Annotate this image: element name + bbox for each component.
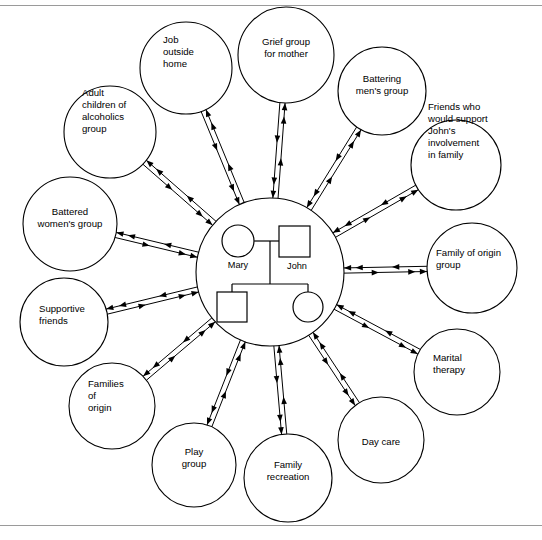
node-label-line: Battered <box>52 206 88 217</box>
connector-marital-therapy[interactable] <box>334 305 420 354</box>
arrowhead-inbound-1 <box>314 189 320 197</box>
connector-supportive-friends[interactable] <box>106 287 199 314</box>
node-label-line: group <box>182 458 207 469</box>
node-label-line: group <box>82 123 107 134</box>
arrowhead-inbound-1 <box>356 265 363 271</box>
node-label-line: for mother <box>264 48 309 59</box>
node-label-line: children of <box>82 99 127 110</box>
arrowhead-inbound-2 <box>234 197 239 205</box>
node-marital-therapy[interactable]: Maritaltherapy <box>414 329 500 415</box>
connector-adult-children-alcoholics[interactable] <box>143 160 216 225</box>
node-label-grief-group-for-mother: Grief groupfor mother <box>262 36 310 59</box>
node-label-supportive-friends: Supportivefriends <box>39 303 85 326</box>
node-job-outside-home[interactable]: Joboutsidehome <box>140 22 232 114</box>
arrowhead-inbound-2 <box>240 342 245 350</box>
connector-grief-group-for-mother[interactable] <box>271 103 288 199</box>
node-label-line: Families <box>88 378 124 389</box>
arrowhead-outbound-0 <box>372 270 379 276</box>
node-label-friends-support-john: Friends whowould supportJohn'sinvolvemen… <box>427 101 488 161</box>
connector-friends-support-john[interactable] <box>333 185 418 237</box>
arrowhead-outbound-1 <box>408 269 415 275</box>
arrowhead-inbound-2 <box>344 265 351 271</box>
ecomap-canvas: Mary John JoboutsidehomeGrief groupfor m… <box>0 0 542 540</box>
node-label-line: origin <box>88 402 111 413</box>
arrowhead-inbound-0 <box>385 331 393 337</box>
arrowhead-inbound-1 <box>229 184 234 192</box>
node-label-line: Day care <box>362 436 400 447</box>
node-family-recreation[interactable]: Familyrecreation <box>244 434 332 522</box>
arrowhead-outbound-1 <box>398 342 406 348</box>
node-label-adult-children-alcoholics: Adultchildren ofalcoholicsgroup <box>82 87 127 135</box>
arrowhead-outbound-2 <box>420 269 427 275</box>
arrowhead-inbound-2 <box>313 332 319 340</box>
node-label-line: Job <box>163 34 178 45</box>
arrowhead-inbound-1 <box>344 220 352 226</box>
node-label-line: Family of origin <box>436 247 501 258</box>
node-label-line: would support <box>427 113 488 124</box>
node-grief-group-for-mother[interactable]: Grief groupfor mother <box>238 7 334 103</box>
node-circle-families-of-origin <box>69 363 155 449</box>
arrowhead-outbound-2 <box>349 398 355 406</box>
connector-battered-womens-group[interactable] <box>115 231 199 258</box>
node-family-of-origin-group[interactable]: Family of origingroup <box>427 223 517 313</box>
node-day-care[interactable]: Day care <box>338 397 424 483</box>
arrowhead-inbound-2 <box>307 200 313 208</box>
node-supportive-friends[interactable]: Supportivefriends <box>20 278 108 366</box>
node-battering-mens-group[interactable]: Batteringmen's group <box>338 47 426 135</box>
node-label-line: in family <box>428 149 463 160</box>
person-son-symbol[interactable] <box>217 292 247 322</box>
connector-day-care[interactable] <box>309 332 360 405</box>
connector-play-group[interactable] <box>207 340 245 427</box>
arrowhead-inbound-0 <box>381 199 389 205</box>
node-label-battered-womens-group: Batteredwomen's group <box>37 206 103 229</box>
arrowhead-outbound-0 <box>326 177 332 185</box>
node-label-line: alcoholics <box>82 111 124 122</box>
node-label-families-of-origin: Familiesoforigin <box>88 378 124 413</box>
node-label-marital-therapy: Maritaltherapy <box>433 352 465 375</box>
node-circle-friends-support-john <box>411 120 501 210</box>
node-battered-womens-group[interactable]: Batteredwomen's group <box>23 177 117 271</box>
node-adult-children-alcoholics[interactable]: Adultchildren ofalcoholicsgroup <box>64 86 156 178</box>
arrowhead-outbound-1 <box>399 196 407 202</box>
connector-families-of-origin[interactable] <box>143 318 215 380</box>
node-layer: JoboutsidehomeGrief groupfor motherBatte… <box>20 7 517 522</box>
arrowhead-outbound-1 <box>212 405 217 413</box>
node-label-line: women's group <box>37 218 103 229</box>
node-label-play-group: Playgroup <box>182 446 207 469</box>
connector-job-outside-home[interactable] <box>201 110 244 205</box>
arrowhead-outbound-1 <box>277 415 283 422</box>
connector-battering-mens-group[interactable] <box>307 127 361 210</box>
arrowhead-inbound-1 <box>348 311 356 317</box>
node-label-line: Battering <box>363 73 401 84</box>
node-families-of-origin[interactable]: Familiesoforigin <box>69 363 155 449</box>
arrowhead-outbound-0 <box>363 217 371 223</box>
node-play-group[interactable]: Playgroup <box>152 423 236 507</box>
connector-family-of-origin-group[interactable] <box>344 264 427 275</box>
arrowhead-outbound-2 <box>355 130 361 138</box>
arrowhead-outbound-0 <box>322 357 328 365</box>
arrowhead-outbound-2 <box>278 427 284 434</box>
arrowhead-outbound-2 <box>206 110 211 118</box>
central-family-group[interactable]: Mary John <box>196 198 344 346</box>
node-label-line: John's <box>428 125 456 136</box>
node-label-line: Adult <box>82 87 104 98</box>
connector-layer <box>106 103 427 435</box>
node-label-line: Grief group <box>262 36 310 47</box>
node-label-line: Friends who <box>428 101 480 112</box>
connector-family-recreation[interactable] <box>274 345 287 434</box>
node-label-line: home <box>163 58 187 69</box>
person-john-symbol[interactable] <box>279 226 310 257</box>
arrowhead-outbound-2 <box>207 417 212 425</box>
arrowhead-inbound-2 <box>333 227 341 233</box>
node-label-battering-mens-group: Batteringmen's group <box>356 73 409 96</box>
node-label-line: therapy <box>433 364 465 375</box>
arrowhead-outbound-0 <box>362 322 370 328</box>
person-mary-symbol[interactable] <box>222 225 254 257</box>
person-daughter-symbol[interactable] <box>293 292 323 322</box>
arrowhead-inbound-0 <box>392 264 399 270</box>
arrowhead-inbound-0 <box>340 373 346 381</box>
person-mary-label: Mary <box>228 260 249 270</box>
arrowhead-inbound-0 <box>336 153 342 161</box>
node-friends-support-john[interactable]: Friends whowould supportJohn'sinvolvemen… <box>411 101 501 210</box>
arrowhead-outbound-1 <box>211 123 216 131</box>
